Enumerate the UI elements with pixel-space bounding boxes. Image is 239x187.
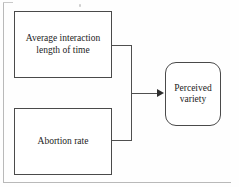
arrow-head-icon	[157, 89, 164, 97]
node-abortion-rate: Abortion rate	[14, 108, 112, 175]
diagram-canvas: Average interaction length of time Abort…	[0, 0, 239, 187]
scan-edge-left	[3, 2, 4, 183]
connector-arrow-shaft	[131, 93, 159, 94]
scan-edge-top	[3, 2, 13, 3]
node-perceived-variety: Perceived variety	[165, 62, 221, 126]
scan-speck-artifact	[79, 4, 81, 7]
node-average-interaction: Average interaction length of time	[14, 11, 112, 78]
scan-edge-bottom	[3, 182, 231, 183]
node-average-interaction-label: Average interaction length of time	[15, 33, 111, 55]
node-perceived-variety-label: Perceived variety	[166, 83, 220, 105]
node-abortion-rate-label: Abortion rate	[34, 136, 93, 147]
connector-lead-from-average-interaction	[112, 45, 132, 46]
connector-lead-from-abortion-rate	[112, 140, 132, 141]
